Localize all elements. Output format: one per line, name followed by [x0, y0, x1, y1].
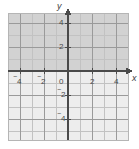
y-tick-label-neg4-value: 4 [61, 114, 65, 123]
y-axis-label: y [57, 2, 62, 11]
y-tick-label-pos4: 4 [59, 19, 63, 27]
y-axis-arrow-icon [65, 8, 72, 15]
x-tick-label-pos2: 2 [90, 78, 94, 86]
x-axis-label: x [132, 74, 137, 83]
y-tick-label-neg2-value: 2 [61, 90, 65, 99]
y-tick-label-neg4-sign: − [57, 110, 61, 117]
x-tick-label-pos4: 4 [114, 78, 118, 86]
x-tick-label-neg4-sign: − [13, 73, 17, 80]
y-tick-label-neg2-sign: − [57, 86, 61, 93]
coordinate-plane-figure: −4 −2 0 2 4 4 2 −2 −4 y x [0, 0, 139, 149]
x-tick-label-neg2-sign: − [37, 73, 41, 80]
y-tick-label-neg2: −2 [57, 91, 66, 99]
x-tick-label-neg4-value: 4 [17, 77, 21, 86]
y-tick-label-pos2: 2 [59, 43, 63, 51]
y-tick-label-neg4: −4 [57, 115, 66, 123]
x-tick-label-neg4: −4 [13, 78, 22, 86]
x-tick-label-zero: 0 [59, 78, 63, 86]
x-tick-label-neg2-value: 2 [41, 77, 45, 86]
x-tick-label-neg2: −2 [37, 78, 46, 86]
coordinate-grid-svg [0, 0, 139, 149]
